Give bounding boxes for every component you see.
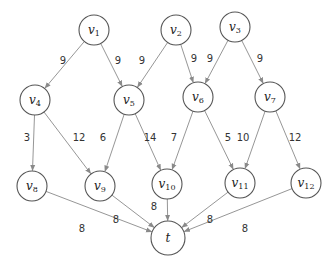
edge-weight-v9-t: 8 xyxy=(113,214,119,225)
edge-weight-v10-t: 8 xyxy=(151,201,157,212)
node-v12: v12 xyxy=(291,168,321,198)
node-label: t xyxy=(166,231,171,245)
node-v7: v7 xyxy=(255,82,285,112)
edge-weight-v7-v12: 12 xyxy=(289,132,302,143)
node-v10: v10 xyxy=(152,169,182,199)
edge-weight-v6-v11: 5 xyxy=(225,132,231,143)
node-v4: v4 xyxy=(20,85,50,115)
edge-weight-v5-v9: 6 xyxy=(100,132,106,143)
node-v3: v3 xyxy=(220,12,250,42)
node-t: t xyxy=(151,221,185,255)
edge-weights-layer: 99999931261475101288888 xyxy=(24,53,302,234)
edge-weight-v6-v10: 7 xyxy=(171,132,177,143)
edge-weight-v5-v10: 14 xyxy=(144,132,157,143)
node-v9: v9 xyxy=(85,171,115,201)
directed-graph: 99999931261475101288888 v1v2v3v4v5v6v7v8… xyxy=(0,0,328,264)
edge-weight-v12-t: 8 xyxy=(242,223,248,234)
edge-weight-v3-v6: 9 xyxy=(207,53,213,64)
node-v11: v11 xyxy=(225,168,255,198)
node-v6: v6 xyxy=(183,82,213,112)
edge-weight-v2-v5: 9 xyxy=(139,55,145,66)
edge-weight-v3-v7: 9 xyxy=(257,53,263,64)
edge-v5-v9 xyxy=(105,114,124,171)
node-v1: v1 xyxy=(79,15,109,45)
edge-weight-v1-v5: 9 xyxy=(115,55,121,66)
node-v8: v8 xyxy=(17,171,47,201)
edge-weight-v2-v6: 9 xyxy=(191,53,197,64)
edge-weight-v1-v4: 9 xyxy=(60,55,66,66)
edge-weight-v4-v9: 12 xyxy=(73,132,86,143)
edge-weight-v8-t: 8 xyxy=(79,223,85,234)
edge-weight-v4-v8: 3 xyxy=(24,132,30,143)
edge-weight-v7-v11: 10 xyxy=(237,132,250,143)
edge-v4-v8 xyxy=(33,115,35,171)
edge-weight-v11-t: 8 xyxy=(207,214,213,225)
edge-v11-t xyxy=(182,192,228,227)
node-v5: v5 xyxy=(114,85,144,115)
node-v2: v2 xyxy=(161,15,191,45)
nodes-layer: v1v2v3v4v5v6v7v8v9v10v11v12t xyxy=(17,12,321,255)
